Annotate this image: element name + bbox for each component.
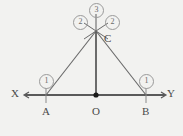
step-badge-1-left: 1 xyxy=(39,74,54,89)
point-label-x: X xyxy=(11,88,19,99)
geometry-figure: X Y A O B C 1 1 2 2 3 xyxy=(0,0,183,136)
step-badge-2-right: 2 xyxy=(105,15,120,30)
point-label-b: B xyxy=(142,106,149,117)
segment-ac xyxy=(46,31,96,95)
step-badge-3-top: 3 xyxy=(89,3,104,18)
step-badge-1-right: 1 xyxy=(139,74,154,89)
point-label-y: Y xyxy=(167,88,175,99)
step-badge-2-left: 2 xyxy=(73,15,88,30)
point-marker-o xyxy=(93,92,98,97)
point-label-a: A xyxy=(42,106,50,117)
point-label-c: C xyxy=(104,33,111,44)
point-label-o: O xyxy=(92,106,100,117)
